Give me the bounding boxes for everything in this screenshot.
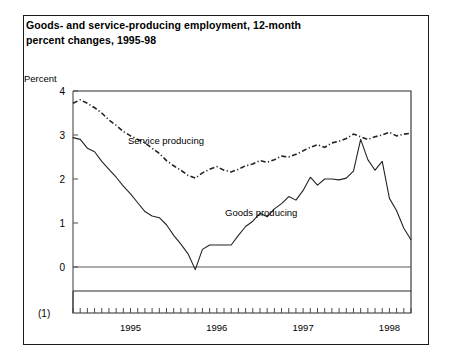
y-ticks-group: 01234	[59, 86, 78, 273]
plot-frame	[73, 91, 411, 291]
series-line-service-producing	[73, 100, 411, 178]
y-tick-label: 4	[59, 86, 65, 97]
series-line-goods-producing	[73, 138, 411, 270]
chart-canvas: 01234 1995199619971998 Service producing…	[0, 0, 464, 360]
x-tick-labels-group: 1995199619971998	[120, 322, 400, 333]
y-tick-label: 0	[59, 262, 65, 273]
x-tick-label: 1996	[206, 322, 227, 333]
y-tick-label: 1	[59, 218, 65, 229]
x-tick-label: 1995	[120, 322, 141, 333]
x-tick-label: 1998	[379, 322, 400, 333]
chart-figure: Goods- and service-producing employment,…	[0, 0, 464, 360]
footnote-marker: (1)	[38, 308, 50, 319]
series-label-service-producing: Service producing	[128, 135, 204, 146]
axes-group	[73, 91, 411, 313]
x-ticks-group	[73, 308, 411, 313]
y-tick-label: 3	[59, 130, 65, 141]
y-tick-label: 2	[59, 174, 65, 185]
series-label-goods-producing: Goods producing	[225, 207, 297, 218]
x-tick-label: 1997	[293, 322, 314, 333]
